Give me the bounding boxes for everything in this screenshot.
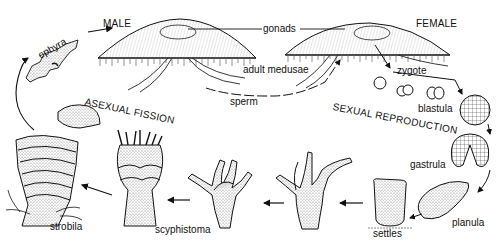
female-label: FEMALE (416, 18, 457, 29)
gonads-label: gonads (263, 23, 296, 34)
male-medusa-icon (98, 19, 256, 92)
strobila-icon (6, 135, 82, 226)
arrow-icon (488, 124, 490, 134)
arrow-icon (82, 185, 112, 195)
scyphistoma-icon (117, 130, 162, 226)
zygote-label: zygote (397, 65, 426, 76)
settled-larva-icon (368, 179, 412, 228)
blastula-label: blastula (418, 103, 452, 114)
strobila-label: strobila (50, 221, 82, 232)
female-medusa-icon (285, 23, 450, 88)
two-cell-stage-icon (397, 85, 413, 96)
scyphistoma-label: scyphistoma (155, 224, 211, 235)
gastrula-label: gastrula (410, 159, 446, 170)
four-cell-stage-icon (427, 87, 444, 99)
adult-medusae-label: adult medusae (243, 64, 309, 75)
gastrula-icon (451, 134, 488, 167)
settles-label: settles (373, 228, 402, 239)
polyp-tentacled-icon (188, 160, 252, 228)
arrow-icon (410, 214, 422, 218)
jellyfish-life-cycle-diagram: MALE FEMALE gonads adult medusae sperm z… (0, 0, 500, 242)
blastula-icon (460, 95, 490, 125)
polyp-icon (276, 152, 352, 229)
male-label: MALE (103, 18, 131, 29)
sperm-label: sperm (230, 96, 258, 107)
planula-label: planula (452, 217, 484, 228)
zygote-cell-icon (374, 77, 386, 89)
planula-icon (418, 182, 469, 219)
arrow-icon (478, 170, 490, 192)
